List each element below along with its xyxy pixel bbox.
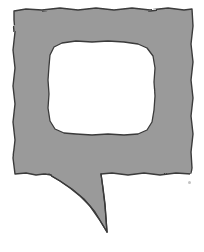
scan-speck-artifact xyxy=(188,181,191,184)
illustration-canvas: Speech Bubble Hand-drawn gray speech bal… xyxy=(0,0,204,252)
speech-bubble-illustration: Empty speech bubble outline xyxy=(0,0,204,252)
